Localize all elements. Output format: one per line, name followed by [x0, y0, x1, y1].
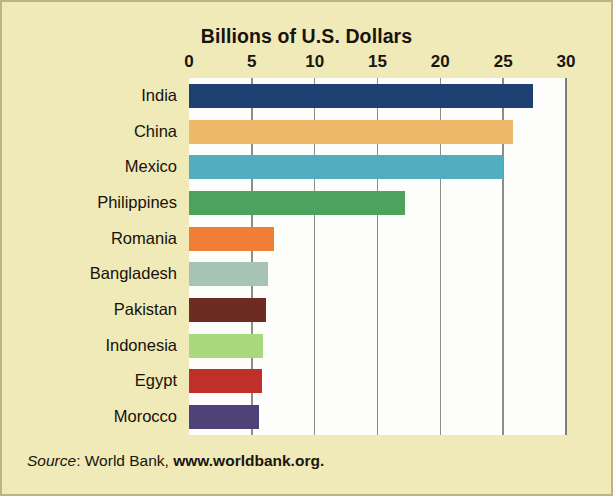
bar-fill [189, 191, 405, 215]
plot-area [189, 78, 566, 435]
bar-fill [189, 227, 274, 251]
bar-fill [189, 120, 513, 144]
source-note: Source: World Bank, www.worldbank.org. [27, 452, 324, 470]
gridline-30 [565, 78, 567, 435]
bar-fill [189, 405, 259, 429]
bar-egypt [189, 369, 262, 393]
category-label-philippines: Philippines [0, 193, 183, 212]
x-tick-label-0: 0 [184, 52, 193, 72]
bar-india [189, 84, 533, 108]
figure-border-top [0, 0, 613, 2]
bar-morocco [189, 405, 259, 429]
bar-fill [189, 262, 268, 286]
x-tick-label-25: 25 [494, 52, 513, 72]
category-label-egypt: Egypt [0, 371, 183, 390]
bar-indonesia [189, 334, 263, 358]
bar-pakistan [189, 298, 266, 322]
x-tick-label-5: 5 [247, 52, 256, 72]
chart-figure: Billions of U.S. Dollars 051015202530 In… [0, 0, 613, 496]
bar-philippines [189, 191, 405, 215]
category-label-mexico: Mexico [0, 157, 183, 176]
x-tick-label-20: 20 [431, 52, 450, 72]
category-label-morocco: Morocco [0, 407, 183, 426]
category-label-china: China [0, 122, 183, 141]
category-label-india: India [0, 86, 183, 105]
bar-fill [189, 298, 266, 322]
x-tick-label-30: 30 [557, 52, 576, 72]
category-label-bangladesh: Bangladesh [0, 264, 183, 283]
bar-fill [189, 369, 262, 393]
source-separator: : [76, 452, 85, 469]
bar-fill [189, 155, 503, 179]
bar-fill [189, 84, 533, 108]
x-tick-label-10: 10 [305, 52, 324, 72]
bar-romania [189, 227, 274, 251]
x-tick-label-15: 15 [368, 52, 387, 72]
bar-fill [189, 334, 263, 358]
source-label: Source [27, 452, 76, 469]
category-label-pakistan: Pakistan [0, 300, 183, 319]
category-label-indonesia: Indonesia [0, 336, 183, 355]
bar-bangladesh [189, 262, 268, 286]
source-url: www.worldbank.org. [173, 452, 324, 469]
category-axis-labels: IndiaChinaMexicoPhilippinesRomaniaBangla… [0, 78, 183, 435]
chart-title: Billions of U.S. Dollars [0, 25, 613, 48]
category-label-romania: Romania [0, 229, 183, 248]
source-publisher: World Bank, [85, 452, 169, 469]
x-axis-tick-labels: 051015202530 [189, 52, 566, 76]
bar-mexico [189, 155, 503, 179]
bar-china [189, 120, 513, 144]
